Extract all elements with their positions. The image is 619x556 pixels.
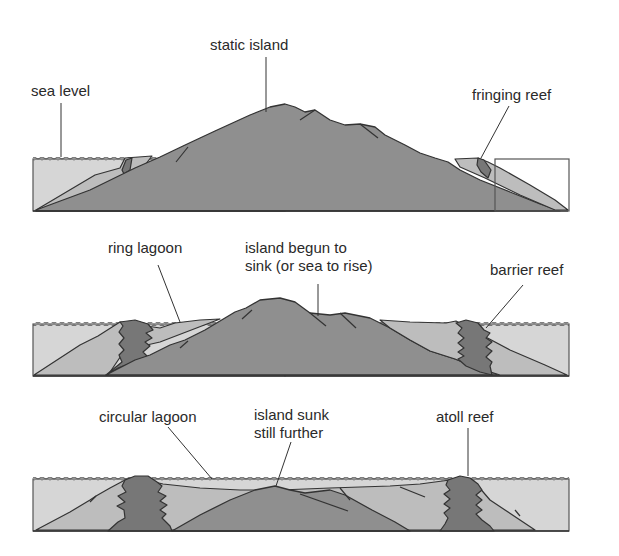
label-island-sunk-line1: island sunk <box>254 406 330 423</box>
fringing-reef-leader <box>481 106 509 158</box>
label-static-island: static island <box>210 36 288 53</box>
panel-atoll: circular lagoon island sunk still furthe… <box>33 406 569 531</box>
label-island-sink-line2: sink (or sea to rise) <box>245 257 373 274</box>
label-ring-lagoon: ring lagoon <box>108 239 182 256</box>
label-circular-lagoon: circular lagoon <box>99 408 197 425</box>
label-sea-level: sea level <box>31 82 90 99</box>
label-atoll-reef: atoll reef <box>436 408 494 425</box>
ring-lagoon-leader <box>158 265 180 322</box>
panel-static-island: sea level static island fringing reef <box>31 36 569 211</box>
barrier-reef-leader <box>486 285 523 328</box>
atoll-formation-diagram: sea level static island fringing reef ri… <box>0 0 619 556</box>
circular-lagoon-leader <box>168 427 212 479</box>
label-island-sunk-line2: still further <box>254 424 323 441</box>
label-barrier-reef: barrier reef <box>490 261 564 278</box>
label-island-sink-line1: island begun to <box>245 239 347 256</box>
sea-surface-wave <box>33 477 569 481</box>
label-fringing-reef: fringing reef <box>472 86 552 103</box>
panel-sinking-island: ring lagoon island begun to sink (or sea… <box>33 239 569 376</box>
